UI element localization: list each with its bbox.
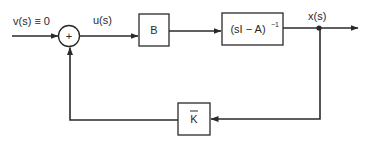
summing-junction: + xyxy=(59,26,80,47)
block-k: K xyxy=(178,103,210,135)
block-diagram: v(s) ≡ 0 + u(s) B (sI − A) −1 x(s) K xyxy=(0,0,372,141)
block-b: B xyxy=(139,14,169,46)
summing-junction-sign: + xyxy=(66,30,72,42)
control-signal-label: u(s) xyxy=(93,14,112,26)
block-k-label: K xyxy=(190,113,198,125)
output-signal-label: x(s) xyxy=(308,10,326,22)
input-signal-label: v(s) ≡ 0 xyxy=(13,15,50,27)
block-resolvent: (sI − A) −1 xyxy=(222,13,283,45)
block-b-label: B xyxy=(150,24,157,36)
resolvent-superscript: −1 xyxy=(271,21,279,28)
pickoff-point xyxy=(316,25,321,30)
resolvent-main: (sI − A) xyxy=(230,23,265,35)
block-resolvent-label: (sI − A) xyxy=(230,23,265,35)
feedback-line-to-sum xyxy=(70,48,178,121)
